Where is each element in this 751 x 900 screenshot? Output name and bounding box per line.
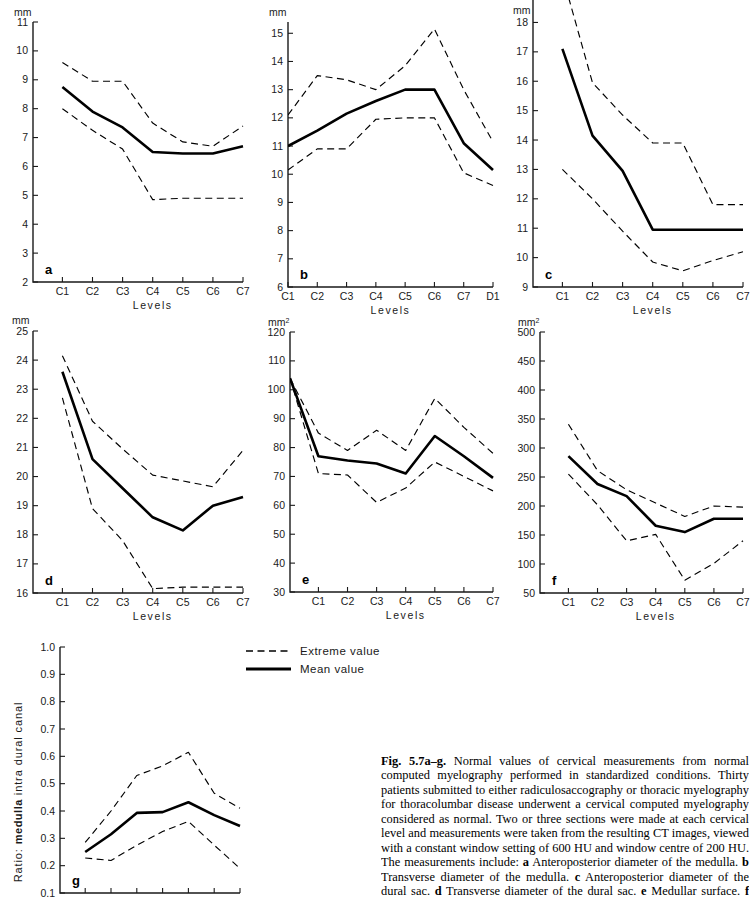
extreme-value-line: [62, 356, 243, 487]
caption-item-letter: d: [435, 884, 442, 898]
x-tick-label: C1: [56, 285, 70, 297]
x-tick-label: C7: [486, 595, 500, 607]
figure-root: 234567891011mmC1C2C3C4C5C6C7Levelsa 6789…: [0, 0, 751, 900]
y-tick-label: 2: [22, 276, 28, 288]
y-tick-label: 11: [517, 222, 528, 234]
y-tick-label: 12: [516, 192, 528, 204]
extreme-value-line: [290, 378, 493, 502]
x-tick-label: C4: [399, 595, 413, 607]
y-tick-label: 1.0: [40, 641, 55, 653]
y-tick-label: 0.8: [40, 695, 55, 707]
axis-unit-label: mm: [269, 6, 287, 18]
x-tick-label: C5: [678, 596, 692, 608]
x-tick-label: C4: [649, 596, 663, 608]
x-tick-label: C6: [706, 290, 720, 302]
y-tick-label: 17: [516, 45, 528, 57]
y-tick-label: 9: [522, 281, 528, 293]
axis-unit-label: mm2: [518, 316, 540, 328]
x-tick-label: C2: [86, 285, 100, 297]
x-tick-label: C4: [369, 290, 383, 302]
axis-unit-label: mm: [513, 4, 531, 16]
chart-svg-g: 0.10.20.30.40.50.60.70.80.91.0Ratio: med…: [0, 625, 250, 900]
dashed-line-icon: [246, 646, 291, 656]
legend: Extreme value Mean value: [246, 643, 380, 679]
x-tick-label: C3: [616, 290, 630, 302]
y-tick-label: 350: [517, 413, 535, 425]
chart-panel-d: 16171819202122232425mmC1C2C3C4C5C6C7Leve…: [0, 310, 250, 620]
x-tick-label: C2: [586, 290, 600, 302]
y-tick-label: 9: [22, 73, 28, 85]
panel-letter-g: g: [72, 873, 80, 888]
chart-panel-b: 6789101112131415mmC1C2C3C4C5C6C7D1Levels…: [250, 0, 500, 310]
chart-svg-d: 16171819202122232425mmC1C2C3C4C5C6C7Leve…: [0, 310, 250, 620]
x-tick-label: C5: [176, 596, 190, 608]
extreme-value-line: [290, 378, 493, 453]
mean-value-line: [62, 87, 243, 153]
mean-value-line: [290, 378, 493, 478]
y-tick-label: 8: [22, 102, 28, 114]
panel-letter-b: b: [300, 267, 308, 282]
x-tick-label: C5: [428, 595, 442, 607]
y-tick-label: 8: [277, 224, 283, 236]
x-tick-label: C1: [312, 595, 326, 607]
y-tick-label: 30: [273, 586, 285, 598]
chart-panel-c: 9101112131415161718mmC1C2C3C4C5C6C7Level…: [500, 0, 751, 310]
y-tick-label: 10: [516, 251, 528, 263]
solid-line-icon: [246, 664, 291, 674]
chart-svg-a: 234567891011mmC1C2C3C4C5C6C7Levelsa: [0, 0, 250, 310]
x-tick-label: C5: [676, 290, 690, 302]
x-axis-title: Levels: [636, 610, 676, 622]
y-tick-label: 14: [516, 134, 528, 146]
x-tick-label: C1: [281, 290, 295, 302]
y-tick-label: 80: [273, 441, 285, 453]
y-tick-label: 14: [271, 55, 283, 67]
y-tick-label: 0.3: [40, 832, 55, 844]
x-tick-label: C4: [146, 596, 160, 608]
legend-label-mean: Mean value: [300, 663, 364, 675]
y-tick-label: 10: [16, 44, 28, 56]
y-tick-label: 21: [16, 441, 28, 453]
x-tick-label: D1: [486, 290, 500, 302]
y-tick-label: 0.2: [40, 859, 55, 871]
y-tick-label: 200: [517, 500, 535, 512]
mean-value-line: [562, 49, 743, 230]
legend-label-extreme: Extreme value: [300, 645, 380, 657]
caption-item-letter: c: [575, 870, 581, 884]
y-tick-label: 0.9: [40, 668, 55, 680]
x-tick-label: C7: [236, 285, 250, 297]
x-tick-label: C1: [556, 290, 570, 302]
x-tick-label: C7: [457, 290, 471, 302]
mean-value-line: [568, 456, 743, 532]
extreme-value-line: [568, 424, 743, 516]
y-tick-label: 18: [516, 16, 528, 28]
caption-item-letter: b: [742, 855, 749, 869]
mean-value-line: [62, 372, 243, 531]
caption-item-letter: f: [745, 884, 749, 898]
y-tick-label: 25: [16, 325, 28, 337]
extreme-value-line: [562, 169, 743, 270]
chart-panel-a: 234567891011mmC1C2C3C4C5C6C7Levelsa: [0, 0, 250, 310]
extreme-value-line: [288, 118, 493, 186]
y-tick-label: 7: [22, 131, 28, 143]
x-tick-label: C2: [86, 596, 100, 608]
x-tick-label: C1: [56, 596, 70, 608]
x-tick-label: C4: [146, 285, 160, 297]
caption-figure-number: Fig. 5.7a–g.: [381, 754, 446, 768]
chart-svg-e: 30405060708090100110120mm2C1C2C3C4C5C6C7…: [250, 310, 500, 620]
y-tick-label: 60: [273, 499, 285, 511]
x-tick-label: C6: [707, 596, 721, 608]
caption-item-letter: e: [641, 884, 647, 898]
y-tick-label: 90: [273, 412, 285, 424]
x-tick-label: C2: [591, 596, 605, 608]
y-tick-label: 15: [271, 27, 283, 39]
x-tick-label: C6: [457, 595, 471, 607]
extreme-value-line: [568, 474, 743, 580]
y-tick-label: 0.7: [40, 723, 55, 735]
y-tick-label: 400: [517, 384, 535, 396]
y-tick-label: 10: [271, 168, 283, 180]
y-tick-label: 70: [273, 470, 285, 482]
y-tick-label: 150: [517, 529, 535, 541]
axis-unit-label: mm: [14, 6, 32, 18]
y-tick-label: 110: [268, 354, 285, 366]
x-tick-label: C3: [620, 596, 634, 608]
